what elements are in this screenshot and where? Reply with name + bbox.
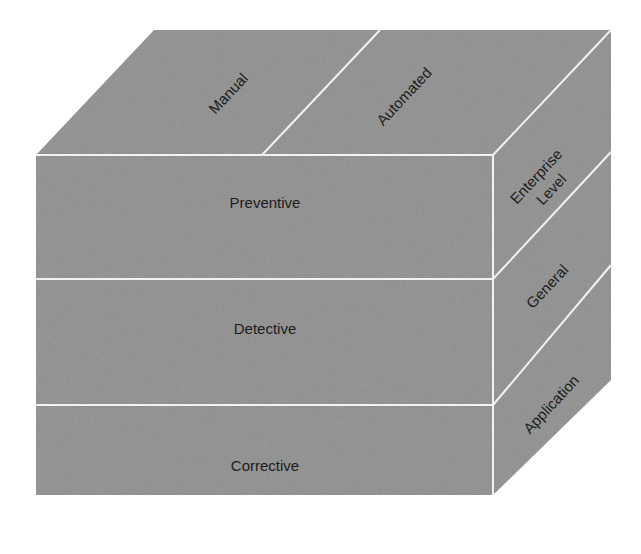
row-label-preventive: Preventive <box>230 194 301 211</box>
row-label-corrective: Corrective <box>231 457 299 474</box>
cube-diagram: Preventive Detective Corrective Manual A… <box>0 0 641 554</box>
row-label-detective: Detective <box>234 320 297 337</box>
